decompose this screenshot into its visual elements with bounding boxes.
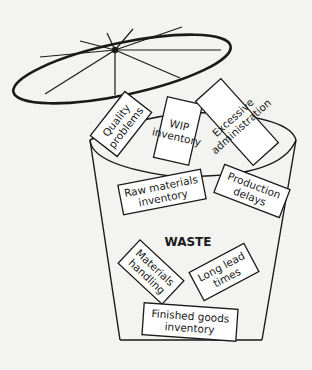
lid-hub bbox=[112, 47, 118, 53]
waste-label-long-lead-times: Long leadtimes bbox=[189, 243, 259, 300]
lid-spokes bbox=[40, 27, 221, 95]
waste-title: WASTE bbox=[164, 235, 211, 249]
lid-spoke bbox=[45, 50, 115, 94]
waste-label-materials-handling: Materialshandling bbox=[118, 240, 184, 304]
waste-bin-diagram: QualityproblemsWIPinventoryExcessiveadmi… bbox=[0, 0, 312, 370]
bin-side-left bbox=[90, 140, 120, 340]
lid-spoke bbox=[40, 50, 115, 57]
bin-side-right bbox=[262, 140, 296, 340]
lid-spoke bbox=[115, 50, 180, 78]
waste-label-raw-materials-inventory: Raw materialsinventory bbox=[118, 169, 206, 214]
waste-label-finished-goods-inventory: Finished goodsinventory bbox=[142, 303, 238, 341]
waste-label-quality-problems: Qualityproblems bbox=[90, 91, 151, 156]
waste-label-production-delays: Productiondelays bbox=[214, 164, 290, 217]
